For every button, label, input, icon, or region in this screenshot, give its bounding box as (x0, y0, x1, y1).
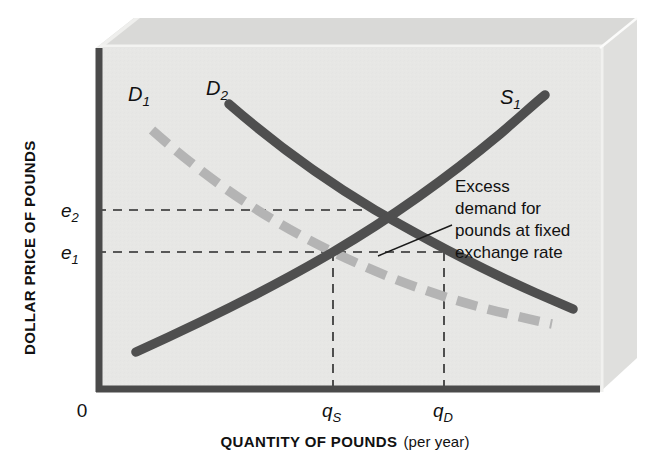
chart-canvas: Excess demand for pounds at fixed exchan… (0, 0, 665, 458)
y-tick-e1: e1 (61, 242, 79, 267)
x-axis-title-rest: (per year) (403, 433, 469, 450)
curve-label-D2-sub: 2 (219, 88, 228, 103)
curve-label-D1-sub: 1 (142, 94, 150, 109)
annotation-line-1: Excess (455, 177, 510, 196)
annotation-line-3: pounds at fixed (455, 221, 570, 240)
curve-label-S1-base: S (500, 86, 514, 108)
y-tick-e1-base: e (61, 242, 72, 263)
slab-right-bevel (600, 18, 637, 392)
x-tick-qd-sub: D (444, 410, 453, 425)
y-tick-e2: e2 (61, 200, 80, 225)
x-tick-qs-base: q (322, 400, 333, 421)
annotation-line-2: demand for (455, 199, 541, 218)
slab-top-bevel (96, 18, 637, 48)
y-axis-title: DOLLAR PRICE OF POUNDS (21, 140, 38, 355)
x-axis-title: QUANTITY OF POUNDS(per year) (221, 433, 470, 450)
y-tick-e2-base: e (61, 200, 72, 221)
curve-label-D1-base: D (128, 83, 142, 105)
x-axis-title-bold: QUANTITY OF POUNDS (221, 433, 398, 450)
x-tick-qd: qD (433, 400, 453, 425)
y-tick-e1-sub: 1 (72, 252, 79, 267)
x-tick-qs-sub: S (333, 410, 342, 425)
x-tick-qs: qS (322, 400, 342, 425)
origin-label: 0 (77, 400, 88, 421)
x-tick-labels: qS qD (322, 400, 453, 425)
exchange-rate-figure: Excess demand for pounds at fixed exchan… (0, 0, 665, 458)
y-tick-labels: e2 e1 (61, 200, 80, 267)
annotation-line-4: exchange rate (455, 243, 563, 262)
y-tick-e2-sub: 2 (71, 210, 80, 225)
curve-label-D2-base: D (206, 77, 220, 99)
x-tick-qd-base: q (433, 400, 444, 421)
curve-label-S1-sub: 1 (513, 97, 521, 112)
